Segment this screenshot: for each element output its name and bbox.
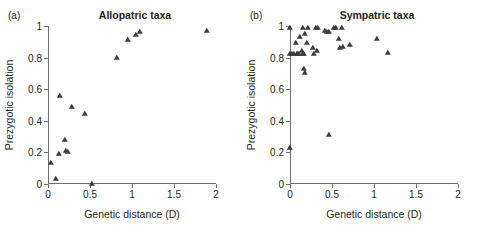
data-point [314, 48, 320, 53]
data-point [125, 37, 131, 42]
y-tick-a-5 [44, 26, 48, 27]
y-ticklabel-a-3: 0.6 [28, 84, 42, 95]
panel-label-b: (b) [250, 10, 262, 21]
x-ticklabel-a-4: 2 [213, 189, 219, 200]
x-tick-b-1 [332, 184, 333, 188]
data-point [137, 29, 143, 34]
data-point [287, 24, 293, 29]
x-ticklabel-a-2: 1 [129, 189, 135, 200]
data-point [53, 176, 59, 181]
y-ticklabel-a-2: 0.4 [28, 115, 42, 126]
data-point [56, 151, 62, 156]
x-tick-a-3 [174, 184, 175, 188]
data-point [305, 24, 311, 29]
x-ticklabel-b-3: 1.5 [409, 189, 423, 200]
y-axis-label-b: Prezygotic isolation [244, 26, 258, 184]
data-point [69, 103, 75, 108]
panel-title-b: Sympatric taxa [282, 9, 472, 21]
y-tick-b-1 [286, 152, 290, 153]
y-ticklabel-a-0: 0 [36, 179, 42, 190]
data-point [88, 181, 94, 186]
y-tick-b-4 [286, 58, 290, 59]
data-point [347, 42, 353, 47]
data-point [374, 35, 380, 40]
y-axis-line-b [290, 26, 291, 184]
x-tick-a-0 [48, 184, 49, 188]
plot-area-b: 00.20.40.60.8100.511.52 [290, 26, 458, 184]
panel-title-a: Allopatric taxa [40, 9, 230, 21]
y-axis-label-a-text: Prezygotic isolation [3, 60, 15, 150]
x-tick-a-4 [216, 184, 217, 188]
x-ticklabel-b-0: 0 [287, 189, 293, 200]
panel-label-a: (a) [8, 10, 20, 21]
y-axis-label-a: Prezygotic isolation [2, 26, 16, 184]
y-ticklabel-b-2: 0.4 [270, 115, 284, 126]
x-tick-b-0 [290, 184, 291, 188]
figure-scatter-panels: (a) Allopatric taxa Prezygotic isolation… [0, 0, 483, 237]
data-point [339, 24, 345, 29]
data-point [293, 40, 299, 45]
data-point [385, 50, 391, 55]
data-point [47, 160, 53, 165]
data-point [62, 137, 68, 142]
panel-allopatric: (a) Allopatric taxa Prezygotic isolation… [0, 0, 241, 237]
y-ticklabel-b-4: 0.8 [270, 52, 284, 63]
y-ticklabel-b-5: 1 [278, 21, 284, 32]
data-point [82, 111, 88, 116]
data-point [326, 29, 332, 34]
y-ticklabel-b-0: 0 [278, 179, 284, 190]
data-point [336, 35, 342, 40]
y-ticklabel-a-1: 0.2 [28, 147, 42, 158]
x-axis-label-a: Genetic distance (D) [48, 208, 216, 220]
x-tick-a-2 [132, 184, 133, 188]
x-tick-b-3 [416, 184, 417, 188]
y-ticklabel-a-4: 0.8 [28, 52, 42, 63]
y-tick-a-4 [44, 58, 48, 59]
plot-area-a: 00.20.40.60.8100.511.52 [48, 26, 216, 184]
data-point [340, 43, 346, 48]
y-ticklabel-b-1: 0.2 [270, 147, 284, 158]
y-tick-a-3 [44, 89, 48, 90]
y-tick-a-2 [44, 121, 48, 122]
x-ticklabel-a-1: 0.5 [83, 189, 97, 200]
data-point [315, 24, 321, 29]
x-axis-label-b: Genetic distance (D) [290, 208, 458, 220]
y-axis-label-b-text: Prezygotic isolation [245, 60, 257, 150]
data-point [325, 132, 331, 137]
data-point [114, 54, 120, 59]
x-ticklabel-b-4: 2 [455, 189, 461, 200]
x-ticklabel-b-2: 1 [371, 189, 377, 200]
data-point [57, 92, 63, 97]
data-point [287, 144, 293, 149]
panel-sympatric: (b) Sympatric taxa Prezygotic isolation … [242, 0, 483, 237]
y-tick-b-3 [286, 89, 290, 90]
x-ticklabel-a-3: 1.5 [167, 189, 181, 200]
x-ticklabel-a-0: 0 [45, 189, 51, 200]
y-tick-b-2 [286, 121, 290, 122]
y-ticklabel-a-5: 1 [36, 21, 42, 32]
y-ticklabel-b-3: 0.6 [270, 84, 284, 95]
data-point [302, 31, 308, 36]
x-tick-b-4 [458, 184, 459, 188]
x-tick-b-2 [374, 184, 375, 188]
data-point [204, 28, 210, 33]
data-point [65, 149, 71, 154]
x-ticklabel-b-1: 0.5 [325, 189, 339, 200]
data-point [302, 70, 308, 75]
data-point [301, 51, 307, 56]
y-tick-a-1 [44, 152, 48, 153]
